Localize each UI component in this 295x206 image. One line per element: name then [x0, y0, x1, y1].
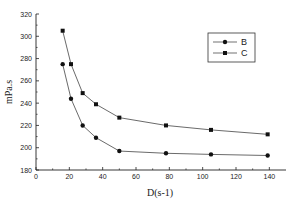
data-point [265, 153, 269, 157]
legend: B C [208, 33, 255, 62]
y-tick-label: 180 [20, 167, 32, 174]
x-tick-label: 120 [230, 173, 242, 180]
data-point [94, 102, 98, 106]
data-point [164, 123, 168, 127]
y-axis-title: mPa.s [3, 80, 14, 104]
x-tick-label: 60 [132, 173, 140, 180]
data-point [164, 151, 168, 155]
circle-marker-icon [223, 40, 227, 44]
legend-label-b: B [241, 37, 247, 47]
x-axis-title: D(s-1) [147, 187, 173, 199]
data-point [61, 29, 65, 33]
data-point [117, 116, 121, 120]
y-tick-label: 200 [20, 144, 32, 151]
x-tick-label: 80 [165, 173, 173, 180]
legend-label-c: C [241, 48, 248, 58]
viscosity-chart: 020406080100120140 180200220240260280300… [0, 0, 295, 206]
x-tick-label: 100 [197, 173, 209, 180]
y-tick-label: 260 [20, 77, 32, 84]
x-tick-label: 0 [34, 173, 38, 180]
data-point [80, 123, 84, 127]
y-tick-label: 240 [20, 100, 32, 107]
square-marker-icon [223, 51, 227, 55]
data-point [209, 128, 213, 132]
y-tick-label: 220 [20, 122, 32, 129]
data-point [266, 132, 270, 136]
data-point [81, 91, 85, 95]
data-point [69, 62, 73, 66]
x-tick-label: 40 [99, 173, 107, 180]
y-axis: 180200220240260280300320 [20, 11, 39, 174]
x-tick-label: 20 [65, 173, 73, 180]
legend-box [208, 33, 255, 62]
y-tick-label: 300 [20, 33, 32, 40]
data-point [60, 62, 64, 66]
data-point [94, 135, 98, 139]
y-tick-label: 280 [20, 55, 32, 62]
data-point [209, 152, 213, 156]
data-point [117, 149, 121, 153]
series-b [60, 62, 269, 158]
x-axis: 020406080100120140 [34, 167, 286, 180]
x-tick-label: 140 [263, 173, 275, 180]
data-point [69, 96, 73, 100]
y-tick-label: 320 [20, 11, 32, 18]
